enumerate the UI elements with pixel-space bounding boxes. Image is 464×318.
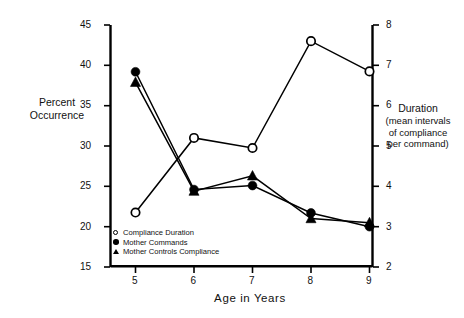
ytick-left-15: 15	[80, 261, 91, 272]
ytick-left-40: 40	[80, 59, 91, 70]
x-axis-title: Age in Years	[175, 292, 325, 305]
chart-plot-area	[0, 0, 464, 318]
legend-label-2: Mother Controls Compliance	[123, 247, 219, 257]
open-circle-marker-icon	[113, 228, 120, 237]
legend-item-compliance-duration: Compliance Duration	[113, 228, 219, 238]
legend-label-1: Mother Commands	[123, 238, 188, 248]
xtick-9: 9	[366, 275, 372, 286]
ytick-right-8: 8	[386, 19, 392, 30]
xtick-7: 7	[249, 275, 255, 286]
data-point-s0-x7	[248, 144, 256, 152]
y-axis-right-title-sub3: per command)	[372, 138, 464, 150]
data-series-layer	[130, 37, 374, 231]
ytick-left-30: 30	[80, 140, 91, 151]
y-axis-right-title-main: Duration	[372, 102, 464, 115]
y-axis-left-ticks	[104, 25, 110, 267]
y-axis-left-title-line2: Occurrence	[18, 109, 96, 122]
legend-item-mother-commands: Mother Commands	[113, 238, 219, 248]
ytick-left-45: 45	[80, 19, 91, 30]
ytick-right-7: 7	[386, 59, 392, 70]
data-point-s1-x5	[131, 67, 140, 76]
xtick-5: 5	[132, 275, 138, 286]
chart-figure: 45 40 35 30 25 20 15 8 7 6 5 4 3 2 5 6 7…	[0, 0, 464, 318]
ytick-right-4: 4	[386, 180, 392, 191]
legend-label-0: Compliance Duration	[123, 228, 194, 238]
data-point-s0-x5	[131, 208, 139, 216]
y-axis-right-title-sub1: (mean intervals	[372, 115, 464, 127]
data-point-s2-x7	[247, 171, 257, 180]
xtick-8: 8	[308, 275, 314, 286]
filled-triangle-marker-icon	[113, 247, 120, 256]
data-point-s0-x6	[190, 134, 198, 142]
xtick-6: 6	[191, 275, 197, 286]
ytick-right-3: 3	[386, 221, 392, 232]
x-axis-ticks	[136, 267, 370, 273]
data-point-s0-x8	[307, 37, 315, 45]
data-point-s0-x9	[365, 67, 373, 75]
ytick-right-2: 2	[386, 261, 392, 272]
filled-circle-marker-icon	[113, 238, 120, 247]
y-axis-right-title: Duration (mean intervals of compliance p…	[372, 102, 464, 150]
legend-item-mother-controls-compliance: Mother Controls Compliance	[113, 247, 219, 257]
y-axis-right-title-sub2: of compliance	[372, 127, 464, 139]
ytick-left-20: 20	[80, 221, 91, 232]
ytick-left-25: 25	[80, 180, 91, 191]
y-axis-left-title: Percent Occurrence	[18, 96, 96, 122]
chart-legend: Compliance Duration Mother Commands Moth…	[113, 228, 219, 257]
y-axis-left-title-line1: Percent	[18, 96, 96, 109]
data-point-s1-x7	[248, 181, 257, 190]
